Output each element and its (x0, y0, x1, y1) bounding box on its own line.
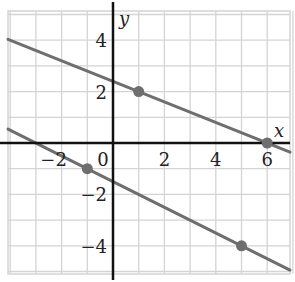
y-axis-label: y (118, 8, 130, 29)
x-tick-label: 2 (159, 149, 170, 170)
data-point (236, 240, 247, 251)
data-point (133, 86, 144, 97)
x-tick-label: 6 (261, 149, 272, 170)
x-tick-label: 0 (97, 149, 108, 170)
line-series-1 (8, 39, 290, 152)
y-tick-label: −4 (80, 236, 107, 257)
y-tick-label: 2 (96, 82, 107, 103)
data-point (262, 138, 273, 149)
x-tick-label: 4 (210, 149, 221, 170)
y-tick-label: 4 (96, 30, 107, 51)
data-point (82, 163, 93, 174)
x-axis-label: x (274, 120, 284, 141)
coordinate-plane: −2024642−2−4yx (0, 0, 295, 282)
y-tick-label: −2 (80, 184, 107, 205)
axes (0, 2, 290, 280)
x-tick-label: −2 (40, 149, 67, 170)
